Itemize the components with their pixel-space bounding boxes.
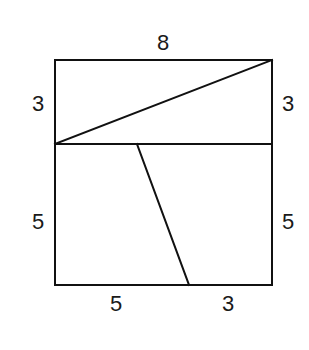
label-upper-right: 3 xyxy=(282,91,294,116)
label-bottom-left: 5 xyxy=(110,291,122,316)
label-top: 8 xyxy=(157,30,169,55)
lower-slanted-segment xyxy=(137,144,189,285)
label-bottom-right: 3 xyxy=(222,291,234,316)
outer-square xyxy=(55,60,272,285)
label-upper-left: 3 xyxy=(32,91,44,116)
label-lower-right: 5 xyxy=(282,209,294,234)
dissection-diagram: 8 3 3 5 5 5 3 xyxy=(0,0,309,350)
upper-diagonal xyxy=(55,60,272,144)
label-lower-left: 5 xyxy=(32,209,44,234)
